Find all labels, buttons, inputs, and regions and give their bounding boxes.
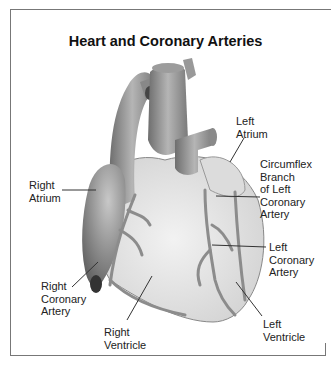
label-left-coronary-artery: Left Coronary Artery [269, 241, 314, 279]
label-left-ventricle: Left Ventricle [263, 318, 305, 343]
label-right-ventricle: Right Ventricle [104, 326, 146, 351]
label-right-coronary-artery: Right Coronary Artery [41, 280, 86, 318]
label-left-atrium: Left Atrium [236, 115, 268, 140]
label-circumflex-branch: Circumflex Branch of Left Coronary Arter… [260, 158, 312, 221]
label-right-atrium: Right Atrium [29, 179, 61, 204]
